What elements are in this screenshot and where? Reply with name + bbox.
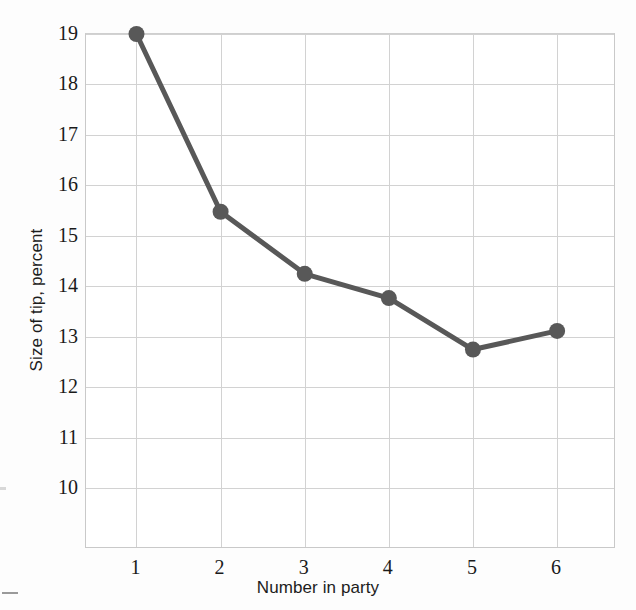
y-tick-label: 10 [38,476,78,499]
x-tick-label: 4 [368,556,408,579]
x-tick-label: 6 [536,556,576,579]
x-tick-label: 3 [284,556,324,579]
data-point-marker [128,26,144,42]
scan-artifact-mark [2,592,18,594]
x-tick-label: 5 [452,556,492,579]
data-point-marker [213,204,229,220]
data-point-marker [549,323,565,339]
y-tick-label: 18 [38,72,78,95]
data-point-marker [297,266,313,282]
plot-area [85,33,615,548]
x-tick-label: 1 [115,556,155,579]
scan-artifact-mark-secondary [0,487,6,490]
line-series [86,34,616,549]
series-markers [128,26,565,358]
series-line-path [136,34,557,350]
y-tick-label: 16 [38,173,78,196]
y-tick-label: 11 [38,425,78,448]
y-tick-label: 17 [38,122,78,145]
y-axis-title: Size of tip, percent [27,200,47,400]
data-point-marker [381,290,397,306]
x-tick-label: 2 [200,556,240,579]
y-tick-label: 19 [38,22,78,45]
x-axis-title: Number in party [0,578,636,598]
data-point-marker [465,342,481,358]
chart-page: 19181716151413121110 123456 Size of tip,… [0,0,636,610]
